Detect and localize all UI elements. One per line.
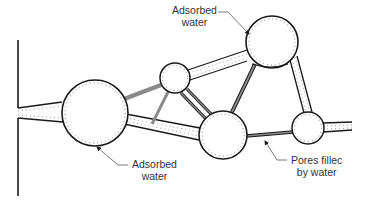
pore-small-right	[292, 112, 324, 144]
throat-topcenter-to-topright	[188, 50, 247, 80]
label-line1: Adsorbed	[132, 158, 177, 170]
throat-left-to-lower	[124, 114, 200, 140]
pore-medium-lower	[199, 111, 247, 159]
label-adsorbed-water-top: Adsorbed water	[172, 4, 217, 28]
label-line2: water	[132, 170, 177, 182]
label-line1: Adsorbed	[172, 4, 217, 16]
pore-small-topcenter	[160, 63, 190, 93]
filled-throat-topcenter-to-lower-double	[181, 89, 212, 119]
filled-throat-topcenter-to-leftlower	[152, 92, 168, 124]
throat-topright-to-right	[290, 56, 312, 113]
label-line2: by water	[291, 166, 342, 178]
label-line1: Pores fillec	[291, 154, 342, 166]
label-line2: water	[172, 16, 217, 28]
pore-topright	[246, 16, 298, 68]
filled-throat-topright-to-lower	[232, 64, 255, 112]
throat-left-inlet	[18, 102, 63, 122]
leader-adsorbed-bottom	[97, 147, 128, 165]
label-adsorbed-water-bottom: Adsorbed water	[132, 158, 177, 182]
leader-adsorbed-top	[218, 12, 249, 34]
pore-large-left	[62, 80, 128, 146]
label-pores-filled-by-water: Pores fillec by water	[291, 154, 342, 178]
filled-throat-lower-to-right	[246, 132, 293, 136]
filled-throat-left-to-topcenter	[124, 85, 161, 99]
leader-pores-filled	[265, 141, 287, 160]
throat-right-outlet	[323, 122, 352, 132]
